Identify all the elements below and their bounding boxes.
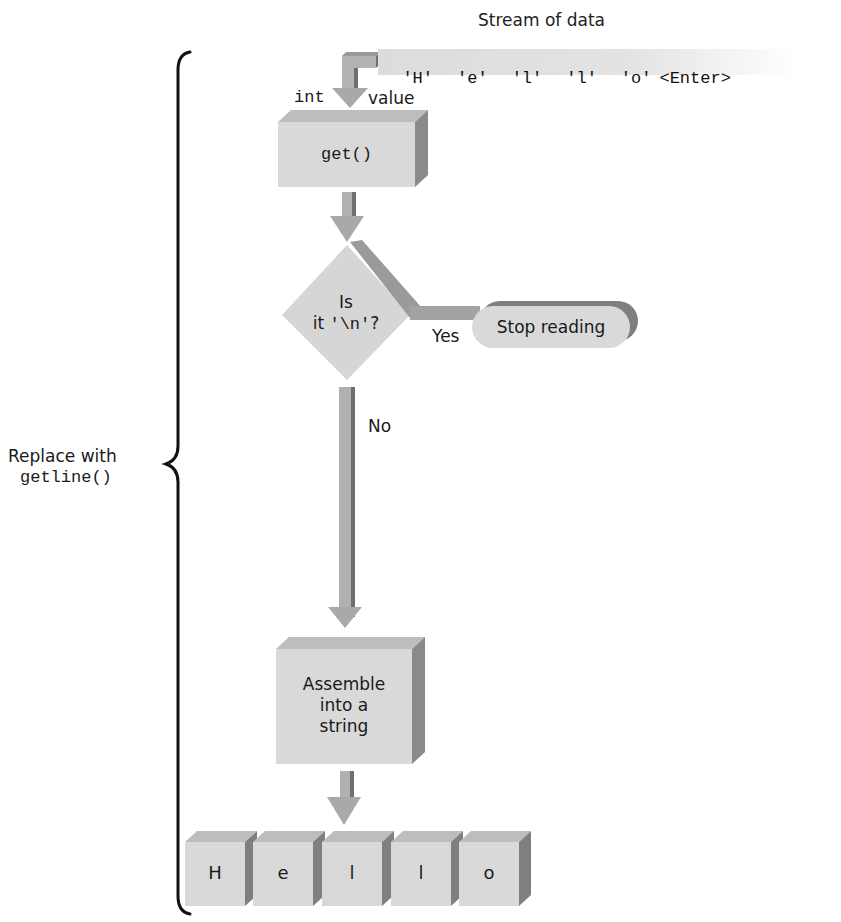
- int-label: int: [294, 88, 325, 107]
- yes-label: Yes: [432, 326, 459, 346]
- brace-icon: [166, 52, 190, 914]
- get-box: get(): [278, 144, 415, 165]
- arrow-get-to-decision: [330, 192, 364, 242]
- stream-item: 'H': [402, 69, 433, 88]
- arrow-assemble-to-result: [327, 771, 361, 825]
- assemble-box: Assemble into a string: [276, 674, 412, 737]
- stream-item: 'o': [621, 69, 652, 88]
- stream-of-data: 'H''e''l''l''o'<Enter>: [382, 50, 731, 88]
- stream-title: Stream of data: [478, 10, 605, 30]
- decision-line-2: it '\n'?: [282, 313, 410, 335]
- brace-label-line-2: getline(): [20, 468, 112, 487]
- result-cell: o: [459, 862, 519, 883]
- decision-text: Is it '\n'?: [282, 292, 410, 335]
- stream-item: 'l': [566, 69, 597, 88]
- decision-line-1: Is: [282, 292, 410, 313]
- result-cell: e: [253, 862, 313, 883]
- stop-reading-node: Stop reading: [472, 317, 630, 338]
- stream-item: 'e': [457, 69, 488, 88]
- value-label: value: [368, 88, 414, 108]
- arrow-decision-to-assemble: [328, 387, 362, 628]
- result-cell: l: [391, 862, 451, 883]
- stream-item: 'l': [512, 69, 543, 88]
- no-label: No: [368, 416, 391, 436]
- result-cell: H: [185, 862, 245, 883]
- result-cell: l: [322, 862, 382, 883]
- flowchart-graphics: [0, 0, 841, 922]
- brace-label-line-1: Replace with: [8, 446, 117, 466]
- stream-item: <Enter>: [659, 69, 730, 88]
